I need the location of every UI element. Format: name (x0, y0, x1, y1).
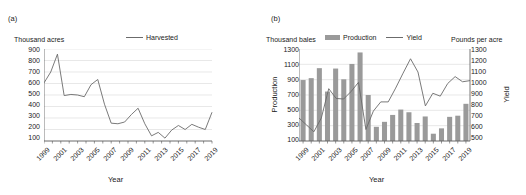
ytick-b-right-900: 900 (471, 90, 501, 97)
figure-root: (a) Thousand acres Harvested 900 800 700… (0, 0, 526, 195)
chart-panel-b: (b) Thousand bales Pounds per acre Produ… (263, 0, 526, 195)
panel-a-legend: Harvested (126, 34, 178, 41)
ytick-b-right-1200: 1200 (471, 57, 501, 64)
panel-b-xtick-marks (303, 141, 466, 144)
legend-item-production: Production (325, 34, 376, 41)
legend-item-harvested: Harvested (126, 34, 178, 41)
ytick-b-right-1100: 1100 (471, 68, 501, 75)
ytick-a-400: 400 (14, 101, 40, 108)
ytick-b-right-700: 700 (471, 112, 501, 119)
ytick-a-800: 800 (14, 57, 40, 64)
series-line-harvested (44, 54, 212, 138)
legend-label-yield: Yield (406, 34, 421, 41)
ytick-a-300: 300 (14, 112, 40, 119)
legend-item-yield: Yield (386, 34, 421, 41)
panel-b-yaxis-title-right: Yield (502, 65, 511, 125)
bar-swatch-icon (325, 35, 340, 40)
line-swatch-icon (386, 37, 403, 38)
ytick-b-right-1000: 1000 (471, 79, 501, 86)
ytick-b-right-1300: 1300 (471, 46, 501, 53)
panel-a-unit-label: Thousand acres (14, 36, 64, 43)
panel-b-yaxis-title-left: Production (270, 65, 279, 125)
ytick-b-left-100: 100 (269, 136, 299, 143)
ytick-a-700: 700 (14, 68, 40, 75)
ytick-a-100: 100 (14, 134, 40, 141)
series-bars-production (301, 52, 469, 141)
ytick-b-right-500: 500 (471, 134, 501, 141)
panel-b-tag: (b) (271, 14, 280, 23)
ytick-a-600: 600 (14, 79, 40, 86)
ytick-b-left-1300: 1300 (269, 46, 299, 53)
panel-a-tag: (a) (8, 14, 17, 23)
ytick-b-right-800: 800 (471, 101, 501, 108)
line-swatch-icon (126, 37, 143, 38)
panel-b-unit-label-left: Thousand bales (266, 36, 316, 43)
legend-label-production: Production (343, 34, 376, 41)
legend-label-harvested: Harvested (146, 34, 178, 41)
panel-b-unit-label-right: Pounds per acre (451, 36, 502, 43)
ytick-a-200: 200 (14, 123, 40, 130)
ytick-a-500: 500 (14, 90, 40, 97)
chart-panel-a: (a) Thousand acres Harvested 900 800 700… (0, 0, 263, 195)
panel-a-xaxis-title: Year (108, 175, 123, 184)
panel-a-xtick-marks (44, 141, 212, 144)
panel-b-xaxis-title: Year (369, 175, 384, 184)
ytick-b-right-600: 600 (471, 123, 501, 130)
panel-a-plot-area (44, 49, 224, 149)
panel-b-plot-area (299, 49, 471, 149)
ytick-a-900: 900 (14, 46, 40, 53)
panel-b-legend: Production Yield (325, 34, 422, 41)
